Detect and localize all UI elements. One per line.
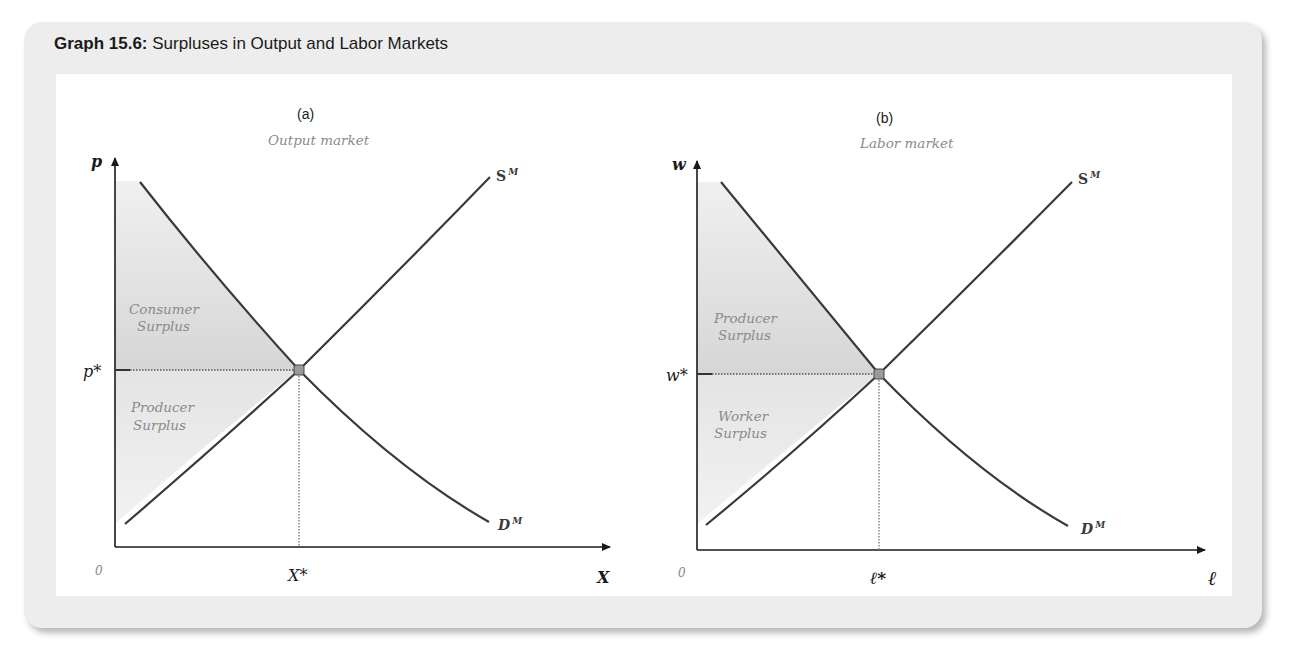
equilibrium-wage-label: w* — [666, 366, 688, 385]
y-axis-label: p — [91, 152, 102, 171]
panel-subtitle: Labor market — [859, 135, 954, 151]
origin-label: 0 — [95, 564, 103, 578]
charts-svg: (a) Output market p X 0 p* X* SM DM Cons… — [56, 74, 1232, 596]
origin-label: 0 — [678, 566, 686, 580]
panel-letter: (a) — [297, 106, 314, 122]
y-axis-label: w — [672, 155, 687, 174]
x-axis-label: ℓ — [1208, 566, 1217, 590]
figure-number: Graph 15.6: — [54, 34, 148, 53]
supply-label: SM — [496, 167, 519, 184]
x-axis-label: X — [596, 568, 610, 587]
equilibrium-point — [294, 365, 304, 375]
panel-subtitle: Output market — [268, 132, 370, 148]
figure-caption: Surpluses in Output and Labor Markets — [152, 34, 448, 53]
figure-title: Graph 15.6: Surpluses in Output and Labo… — [54, 34, 448, 54]
chart-b: (b) Labor market w ℓ 0 w* ℓ* SM DM Produ… — [666, 110, 1217, 590]
consumer-surplus-region — [115, 181, 298, 370]
demand-label: DM — [497, 516, 523, 533]
worker-surplus-label: Worker Surplus — [714, 408, 772, 441]
worker-surplus-region — [697, 374, 878, 524]
equilibrium-qty-label: X* — [286, 566, 307, 585]
equilibrium-labor-label: ℓ* — [870, 568, 886, 588]
figure-frame: Graph 15.6: Surpluses in Output and Labo… — [24, 22, 1262, 628]
producer-surplus-region — [697, 182, 878, 374]
panel-letter: (b) — [876, 110, 893, 126]
supply-label: SM — [1078, 170, 1101, 187]
equilibrium-point — [874, 369, 884, 379]
chart-a: (a) Output market p X 0 p* X* SM DM Cons… — [83, 106, 610, 587]
chart-panel: (a) Output market p X 0 p* X* SM DM Cons… — [56, 74, 1232, 596]
demand-label: DM — [1080, 520, 1106, 537]
producer-surplus-region — [115, 370, 298, 524]
equilibrium-price-label: p* — [83, 362, 101, 381]
